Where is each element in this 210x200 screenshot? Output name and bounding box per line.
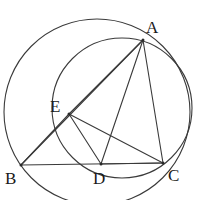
point-label-D: D — [93, 170, 105, 187]
point-label-B: B — [5, 170, 16, 187]
vertex-C — [162, 162, 165, 165]
vertex-A — [142, 39, 145, 42]
vertex-B — [20, 164, 23, 167]
point-label-C: C — [168, 167, 179, 184]
point-label-A: A — [146, 19, 158, 36]
vertex-E — [68, 113, 71, 116]
vertex-D — [100, 163, 103, 166]
point-label-E: E — [50, 98, 60, 115]
